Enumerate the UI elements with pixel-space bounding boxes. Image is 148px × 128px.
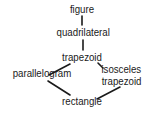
edge-parallelogram-rectangle [48, 81, 70, 95]
node-parallelogram: parallelogram [12, 68, 72, 79]
shape-hierarchy-diagram: figure quadrilateral trapezoid parallelo… [0, 0, 148, 128]
node-rectangle: rectangle [60, 96, 104, 107]
node-quadrilateral: quadrilateral [57, 27, 110, 38]
node-isosceles-trapezoid-line1: isosceles [101, 64, 136, 75]
node-figure: figure [64, 4, 99, 15]
node-trapezoid: trapezoid [60, 52, 104, 63]
node-isosceles-trapezoid-line2: trapezoid [102, 76, 141, 87]
